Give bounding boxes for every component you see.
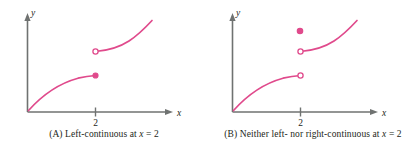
x-tick-label-2-b: 2 <box>298 118 303 128</box>
open-circle-marker-a <box>93 49 98 54</box>
caption-b: (B) Neither left- nor right-continuous a… <box>209 128 417 140</box>
open-circle-marker-upper-b <box>298 49 303 54</box>
x-axis-label-a: x <box>176 108 182 118</box>
panel-b: y x 2 (B) Neither left- nor right-contin… <box>209 0 417 150</box>
curve-left-branch-b <box>234 76 301 111</box>
x-axis-label-b: x <box>381 108 387 118</box>
open-circle-marker-lower-b <box>298 73 303 78</box>
caption-b-suffix: = 2 <box>386 129 401 139</box>
plot-a: y x 2 <box>0 0 208 128</box>
curve-left-branch-a <box>29 76 96 111</box>
x-axis-a <box>28 109 174 115</box>
plot-b: y x 2 <box>209 0 417 128</box>
curve-right-branch-b <box>301 21 358 52</box>
y-axis-label-b: y <box>235 8 241 18</box>
x-axis-b <box>233 109 379 115</box>
caption-b-prefix: (B) Neither left- nor right-continuous a… <box>224 129 382 139</box>
caption-a: (A) Left-continuous at x = 2 <box>0 128 208 140</box>
isolated-filled-dot-marker-b <box>297 28 302 33</box>
filled-dot-marker-a <box>93 73 98 78</box>
x-tick-label-2-a: 2 <box>93 118 98 128</box>
y-axis-a <box>24 13 30 112</box>
y-axis-b <box>229 13 235 112</box>
caption-a-suffix: = 2 <box>144 129 159 139</box>
curve-right-branch-a <box>96 21 153 52</box>
y-axis-label-a: y <box>30 8 36 18</box>
caption-a-prefix: (A) Left-continuous at <box>49 129 139 139</box>
figure-continuity-examples: y x 2 (A) Left-continuous at x = 2 <box>0 0 417 150</box>
panel-a: y x 2 (A) Left-continuous at x = 2 <box>0 0 208 150</box>
